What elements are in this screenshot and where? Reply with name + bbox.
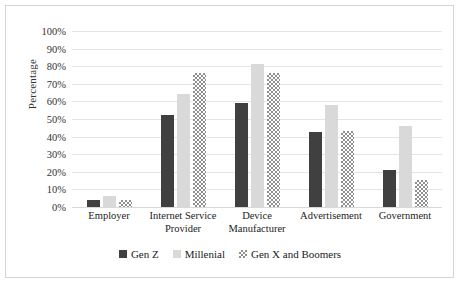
legend-label: Gen X and Boomers <box>251 248 341 260</box>
chart-legend: Gen ZMillenialGen X and Boomers <box>0 248 460 260</box>
bar <box>87 200 100 207</box>
x-axis-tick-label: Government <box>368 210 442 235</box>
legend-swatch-icon <box>173 250 181 258</box>
bar <box>103 196 116 207</box>
legend-label: Millenial <box>185 248 225 260</box>
y-axis-tick-label: 90% <box>47 43 66 54</box>
bar <box>415 180 428 207</box>
bar <box>193 73 206 207</box>
y-axis-tick-label: 60% <box>47 96 66 107</box>
bar-layer <box>72 31 442 207</box>
x-axis-tick-label: Advertisement <box>294 210 368 235</box>
y-axis-tick-label: 50% <box>47 114 66 125</box>
bar <box>251 64 264 207</box>
bar-group <box>72 31 146 207</box>
x-axis-tick-label: Internet Service Provider <box>146 210 220 235</box>
y-axis-title: Percentage <box>26 24 38 144</box>
bar <box>119 200 132 207</box>
bar <box>341 131 354 207</box>
bar-chart: Percentage 100%90%80%70%60%50%40%30%20%1… <box>0 0 460 284</box>
bar <box>161 115 174 207</box>
bar <box>309 132 322 207</box>
bar <box>383 170 396 207</box>
bar-group <box>146 31 220 207</box>
legend-item[interactable]: Gen X and Boomers <box>239 248 341 260</box>
y-axis-tick-label: 70% <box>47 78 66 89</box>
y-axis-tick-label: 40% <box>47 131 66 142</box>
gridline <box>72 207 442 208</box>
y-axis-tick-label: 30% <box>47 149 66 160</box>
y-axis-tick-label: 10% <box>47 184 66 195</box>
bar <box>177 94 190 207</box>
bar-group <box>294 31 368 207</box>
legend-swatch-icon <box>119 250 127 258</box>
bar <box>267 73 280 207</box>
plot-area: 100%90%80%70%60%50%40%30%20%10%0% <box>72 31 442 207</box>
bar-group <box>220 31 294 207</box>
x-axis-category-labels: EmployerInternet Service ProviderDevice … <box>72 210 442 235</box>
y-axis-tick-label: 80% <box>47 61 66 72</box>
legend-item[interactable]: Millenial <box>173 248 225 260</box>
legend-item[interactable]: Gen Z <box>119 248 159 260</box>
y-axis-tick-label: 20% <box>47 166 66 177</box>
legend-label: Gen Z <box>131 248 159 260</box>
x-axis-tick-label: Employer <box>72 210 146 235</box>
bar <box>235 103 248 207</box>
bar <box>399 126 412 207</box>
y-axis-tick-label: 100% <box>42 26 67 37</box>
legend-swatch-icon <box>239 250 247 258</box>
x-axis-tick-label: Device Manufacturer <box>220 210 294 235</box>
bar-group <box>368 31 442 207</box>
y-axis-tick-label: 0% <box>52 202 66 213</box>
bar <box>325 105 338 207</box>
